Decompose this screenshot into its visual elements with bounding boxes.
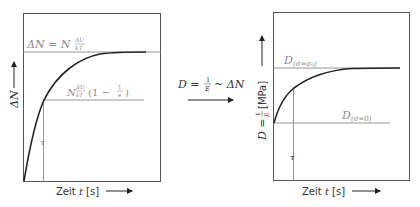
left-plot: ΔN = N ΔU kT N ΔU kT (1 − 1 e ) τ ΔN Zei… — [8, 14, 161, 198]
left-x-axis-label: Zeit t [s] — [56, 186, 99, 197]
left-tau-level-close: ) — [125, 87, 129, 98]
left-y-axis-label: ΔN — [8, 90, 21, 109]
left-asymptote-frac-den: kT — [75, 44, 84, 51]
left-tau-level-e-den: e — [118, 92, 122, 98]
left-asymptote-label: ΔN = N — [26, 38, 71, 51]
right-tau-label: τ — [290, 153, 295, 162]
left-tau-level-e-num: 1 — [118, 84, 122, 90]
right-y-axis-label: D = 1 E [MPa] — [254, 81, 270, 141]
relation-lhs: D = — [177, 78, 200, 91]
relation-frac-num: 1 — [206, 76, 210, 84]
svg-text:1: 1 — [254, 112, 261, 116]
right-plot: D (σ=σ₀) D (σ=0) τ D = 1 E [MPa] Zeit t … — [254, 13, 410, 198]
center-relation: D = 1 E ~ ΔN — [177, 76, 245, 100]
right-upper-label-D: D — [283, 54, 293, 67]
right-lower-label-D: D — [341, 109, 351, 122]
svg-text:[MPa]: [MPa] — [257, 81, 268, 109]
svg-text:E: E — [263, 112, 270, 118]
right-compliance-curve — [274, 68, 400, 123]
diagram-canvas: ΔN = N ΔU kT N ΔU kT (1 − 1 e ) τ ΔN Zei… — [0, 0, 420, 207]
left-tau-level-paren: (1 − — [88, 87, 110, 98]
right-x-axis-label: Zeit t [s] — [302, 186, 345, 197]
left-tau-label: τ — [40, 138, 45, 147]
left-growth-curve — [24, 52, 146, 181]
relation-rhs: ~ ΔN — [214, 78, 245, 91]
left-tau-level-frac-den: kT — [76, 92, 83, 98]
right-lower-label-sub: (σ=0) — [351, 115, 372, 123]
left-tau-level-frac-num: ΔU — [75, 84, 85, 90]
right-upper-label-sub: (σ=σ₀) — [293, 60, 317, 68]
left-asymptote-frac-num: ΔU — [74, 36, 85, 43]
svg-text:D =: D = — [256, 118, 269, 141]
relation-frac-den: E — [204, 85, 210, 93]
